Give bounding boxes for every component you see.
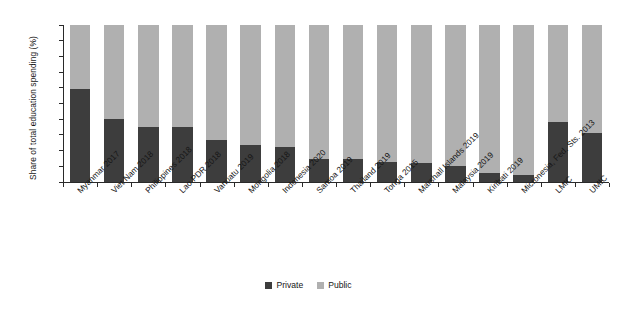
x-tick-mark [507, 183, 508, 187]
bar-group[interactable] [582, 25, 602, 182]
x-tick-mark [200, 183, 201, 187]
y-axis-line [63, 25, 64, 183]
bar-segment-public[interactable] [411, 25, 431, 163]
y-tick-mark [59, 56, 63, 57]
y-tick-mark [59, 103, 63, 104]
bar-segment-public[interactable] [70, 25, 90, 89]
bar-segment-private[interactable] [70, 89, 90, 182]
x-tick-mark [541, 183, 542, 187]
y-axis-title: Share of total education spending (%) [28, 13, 38, 203]
x-tick-mark [336, 183, 337, 187]
bar-segment-public[interactable] [206, 25, 226, 140]
legend-label: Public [328, 280, 351, 290]
bar-segment-public[interactable] [377, 25, 397, 162]
bar-segment-public[interactable] [172, 25, 192, 127]
x-tick-mark [63, 183, 64, 187]
chart-legend: PrivatePublic [0, 280, 617, 290]
bar-segment-public[interactable] [275, 25, 295, 147]
y-tick-mark [59, 119, 63, 120]
bar-segment-public[interactable] [513, 25, 533, 175]
bar-segment-public[interactable] [240, 25, 260, 145]
x-tick-mark [268, 183, 269, 187]
bar-segment-public[interactable] [309, 25, 329, 159]
x-tick-mark [165, 183, 166, 187]
x-tick-mark [575, 183, 576, 187]
y-tick-mark [59, 166, 63, 167]
y-tick-mark [59, 87, 63, 88]
x-tick-mark [302, 183, 303, 187]
legend-label: Private [276, 280, 303, 290]
x-tick-mark [370, 183, 371, 187]
x-tick-mark [609, 183, 610, 187]
x-tick-mark [97, 183, 98, 187]
legend-swatch-icon [317, 282, 324, 289]
y-tick-mark [59, 134, 63, 135]
x-tick-mark [404, 183, 405, 187]
x-tick-mark [473, 183, 474, 187]
y-tick-mark [59, 72, 63, 73]
legend-swatch-icon [265, 282, 272, 289]
y-tick-mark [59, 25, 63, 26]
y-tick-mark [59, 40, 63, 41]
bar-segment-public[interactable] [343, 25, 363, 159]
x-tick-mark [438, 183, 439, 187]
legend-item[interactable]: Private [265, 280, 303, 290]
x-tick-mark [131, 183, 132, 187]
bar-segment-public[interactable] [104, 25, 124, 119]
bar-segment-public[interactable] [548, 25, 568, 122]
legend-item[interactable]: Public [317, 280, 351, 290]
bar-group[interactable] [70, 25, 90, 182]
x-tick-mark [234, 183, 235, 187]
chart-container: Share of total education spending (%) 01… [0, 0, 617, 309]
y-tick-mark [59, 150, 63, 151]
bar-segment-public[interactable] [138, 25, 158, 127]
bar-segment-public[interactable] [582, 25, 602, 133]
